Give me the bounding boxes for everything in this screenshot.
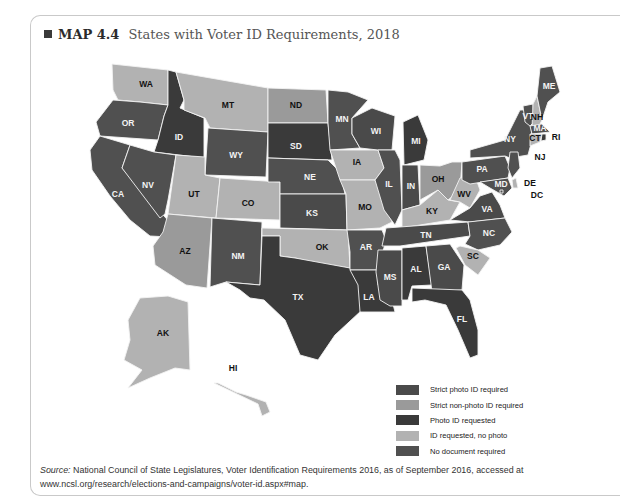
legend-item-strict-nonphoto: Strict non-photo ID required — [396, 397, 523, 412]
state-label-ct: CT — [529, 133, 541, 143]
state-label-mn: MN — [335, 114, 348, 124]
legend-swatch — [396, 385, 419, 395]
state-label-ak: AK — [157, 328, 170, 338]
state-ak — [124, 296, 190, 388]
source-note: Source: National Council of State Legisl… — [40, 463, 600, 491]
state-ri — [541, 134, 546, 141]
state-label-mi: MI — [411, 136, 420, 146]
source-text: National Council of State Legislatures, … — [40, 465, 524, 489]
state-label-nv: NV — [142, 180, 154, 190]
legend-item-strict-photo: Strict photo ID required — [396, 382, 523, 397]
state-label-nj: NJ — [535, 152, 546, 162]
state-label-wv: WV — [457, 189, 471, 199]
state-label-nc: NC — [483, 228, 495, 238]
state-label-ar: AR — [360, 242, 372, 252]
state-label-nd: ND — [290, 100, 302, 110]
legend-label: Photo ID requested — [430, 416, 495, 425]
state-label-nh: NH — [531, 112, 543, 122]
legend-swatch — [396, 400, 419, 410]
state-label-tn: TN — [420, 230, 431, 240]
state-label-pa: PA — [476, 164, 487, 174]
legend-label: Strict non-photo ID required — [430, 401, 523, 410]
state-label-ny: NY — [504, 134, 516, 144]
state-label-wa: WA — [139, 79, 153, 89]
state-label-ut: UT — [188, 189, 200, 199]
state-fl — [412, 288, 478, 358]
state-nj — [508, 152, 520, 178]
state-label-me: ME — [543, 81, 556, 91]
state-label-mt: MT — [222, 100, 235, 110]
legend-swatch — [396, 431, 419, 441]
state-label-la: LA — [363, 292, 374, 302]
legend: Strict photo ID requiredStrict non-photo… — [396, 382, 523, 459]
state-label-va: VA — [481, 204, 492, 214]
state-label-or: OR — [122, 118, 135, 128]
state-label-ma: MA — [533, 123, 546, 133]
state-label-mo: MO — [358, 202, 372, 212]
state-label-wy: WY — [229, 150, 243, 160]
legend-item-photo-requested: Photo ID requested — [396, 413, 523, 428]
state-label-ne: NE — [304, 172, 316, 182]
state-label-de: DE — [524, 178, 536, 188]
state-label-ks: KS — [306, 208, 318, 218]
state-label-fl: FL — [457, 314, 467, 324]
state-label-az: AZ — [179, 246, 190, 256]
state-label-ky: KY — [426, 206, 438, 216]
state-label-ms: MS — [384, 272, 397, 282]
state-dc — [500, 190, 503, 193]
state-label-ia: IA — [353, 157, 362, 167]
legend-label: No document required — [430, 447, 505, 456]
state-label-tx: TX — [293, 292, 304, 302]
state-label-oh: OH — [432, 174, 445, 184]
state-label-sd: SD — [290, 141, 302, 151]
legend-item-no-doc: No document required — [396, 444, 523, 459]
state-hi — [214, 383, 270, 416]
state-label-ca: CA — [112, 189, 124, 199]
legend-label: Strict photo ID required — [430, 385, 508, 394]
state-label-ok: OK — [316, 242, 330, 252]
legend-label: ID requested, no photo — [430, 431, 507, 440]
state-label-il: IL — [385, 179, 393, 189]
source-prefix: Source: — [40, 465, 71, 475]
state-label-dc: DC — [531, 190, 543, 200]
state-label-ri: RI — [552, 132, 561, 142]
legend-swatch — [396, 415, 419, 425]
state-label-id: ID — [175, 132, 184, 142]
state-label-in: IN — [407, 181, 416, 191]
state-de — [512, 178, 518, 188]
legend-item-id-no-photo: ID requested, no photo — [396, 428, 523, 443]
state-label-hi: HI — [229, 363, 238, 373]
state-label-co: CO — [242, 198, 255, 208]
state-label-md: MD — [494, 179, 507, 189]
state-label-ga: GA — [438, 262, 451, 272]
legend-swatch — [396, 446, 419, 456]
state-label-nm: NM — [231, 251, 244, 261]
state-label-al: AL — [410, 264, 421, 274]
state-label-sc: SC — [467, 251, 479, 261]
state-label-wi: WI — [371, 126, 381, 136]
